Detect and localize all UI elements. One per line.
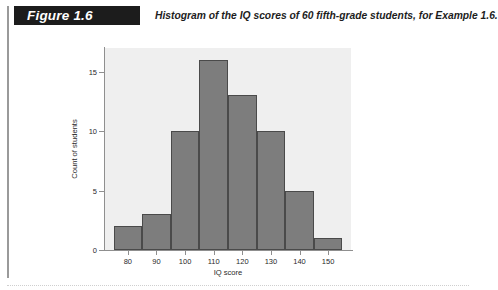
x-tick-label: 90 [152,257,160,266]
x-tick [242,251,243,255]
histogram-bar [171,131,200,250]
histogram-bar [314,238,343,250]
y-tick-label: 10 [89,127,97,136]
y-tick [99,131,104,132]
x-tick [214,251,215,255]
y-tick-label: 0 [93,246,97,255]
x-tick-label: 130 [265,257,278,266]
y-axis-line [104,47,105,251]
x-tick [328,251,329,255]
histogram-bar [257,131,286,250]
y-tick [99,250,104,251]
x-tick [185,251,186,255]
x-axis-title: IQ score [214,268,243,277]
x-axis-line [99,250,353,251]
x-tick-label: 150 [322,257,335,266]
y-tick [99,72,104,73]
histogram-bar [285,191,314,251]
histogram-bar [142,214,171,250]
histogram-bar [199,60,228,250]
x-tick-label: 110 [208,257,220,266]
x-tick-label: 140 [293,257,306,266]
y-tick-label: 15 [89,67,97,76]
x-tick [271,251,272,255]
x-tick [156,251,157,255]
histogram-bar [114,226,143,250]
x-tick [128,251,129,255]
x-tick-label: 100 [179,257,192,266]
x-tick [300,251,301,255]
x-tick-label: 120 [236,257,249,266]
x-tick-label: 80 [124,257,132,266]
y-axis-title: Count of students [70,119,79,179]
histogram-bar [228,95,257,250]
y-tick [99,191,104,192]
y-tick-label: 5 [93,186,97,195]
